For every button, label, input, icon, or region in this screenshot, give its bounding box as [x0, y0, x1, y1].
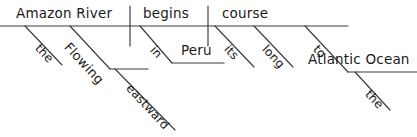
label-subject: Amazon River: [16, 7, 112, 21]
label-verb-prep-object: Peru: [181, 44, 212, 58]
label-object-prep-object: Atlantic Ocean: [308, 53, 410, 67]
sentence-diagram: Amazon River begins course the Flowing e…: [0, 0, 417, 137]
label-verb: begins: [143, 7, 189, 21]
label-direct-object: course: [222, 7, 268, 21]
